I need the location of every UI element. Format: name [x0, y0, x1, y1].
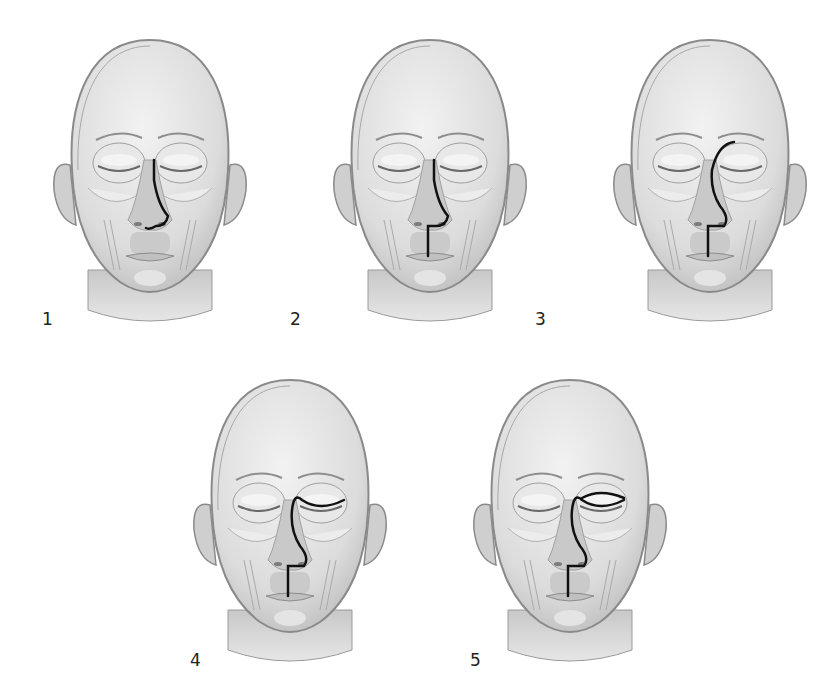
panel-3: [590, 20, 814, 340]
panel-5: [450, 360, 690, 677]
face-illustration-4: [170, 360, 410, 677]
panel-label-1: 1: [42, 309, 53, 329]
face-illustration-2: [310, 20, 550, 340]
panel-label-5: 5: [470, 650, 481, 670]
face-illustration-1: [30, 20, 270, 340]
face-illustration-5: [450, 360, 690, 677]
panel-1: [30, 20, 270, 340]
panel-label-4: 4: [190, 650, 201, 670]
panel-4: [170, 360, 410, 677]
face-illustration-3: [590, 20, 814, 340]
panel-2: [310, 20, 550, 340]
panel-label-3: 3: [535, 309, 546, 329]
panel-label-2: 2: [290, 309, 301, 329]
